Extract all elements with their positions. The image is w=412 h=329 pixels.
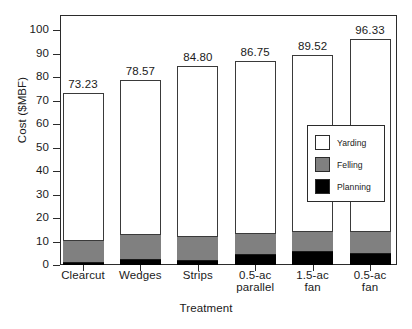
legend-label-yarding: Yarding [337,138,366,148]
bar-stack-wedges [120,80,161,265]
stacked-bar-chart: Cost ($MBF) 1009080706050403020100 73.23… [0,0,412,329]
y-tick-mark [53,77,60,78]
x-category-label-line1: Strips [183,269,213,281]
y-tick-mark [53,171,60,172]
y-tick-mark [53,265,60,266]
x-category-label-line1: Wedges [119,269,162,281]
legend-label-planning: Planning [337,182,371,192]
bar-value-label: 84.80 [183,51,212,63]
x-category-label-line1: 0.5-ac [354,269,387,281]
y-tick-mark [53,30,60,31]
y-tick-label: 90 [9,48,49,60]
legend-item-felling: Felling [315,154,384,175]
y-tick-label: 30 [9,189,49,201]
bar-value-label: 86.75 [241,46,270,58]
bar-segment-planning [292,251,333,265]
legend-swatch-planning [315,179,330,194]
bar-value-label: 73.23 [68,78,97,90]
bar-group: 84.80 [177,15,218,265]
x-category-label: 0.5-acfan [330,269,410,294]
y-tick-label: 20 [9,212,49,224]
y-tick-mark [53,124,60,125]
bar-value-label: 89.52 [298,40,327,52]
legend-swatch-felling [315,157,330,172]
chart-legend: Yarding Felling Planning [307,125,385,202]
x-category-label-line2: fan [330,281,410,293]
x-axis-title: Treatment [0,302,412,314]
y-tick-label: 100 [9,24,49,36]
legend-item-planning: Planning [315,176,384,197]
y-tick-label: 80 [9,71,49,83]
bar-segment-planning [235,254,276,265]
y-tick-mark [53,218,60,219]
y-tick-label: 50 [9,142,49,154]
bar-stack-clearcut [63,93,104,265]
x-category-label-line1: Clearcut [61,269,105,281]
bar-segment-felling [63,240,104,265]
bar-stack-0-5-ac-parallel [235,61,276,265]
bar-stack-strips [177,66,218,265]
y-tick-mark [53,148,60,149]
bar-group: 86.75 [235,15,276,265]
y-tick-label: 40 [9,165,49,177]
legend-label-felling: Felling [337,160,363,170]
y-tick-mark [53,101,60,102]
bar-value-label: 96.33 [355,24,384,36]
bar-group: 78.57 [120,15,161,265]
legend-swatch-yarding [315,135,330,150]
y-tick-mark [53,54,60,55]
y-tick-mark [53,195,60,196]
bar-group: 73.23 [63,15,104,265]
x-category-label-line1: 1.5-ac [296,269,329,281]
y-tick-mark [53,242,60,243]
legend-item-yarding: Yarding [315,132,384,153]
bar-segment-planning [350,253,391,266]
x-category-label-line1: 0.5-ac [239,269,272,281]
bar-value-label: 78.57 [126,65,155,77]
y-tick-label: 60 [9,118,49,130]
y-tick-label: 70 [9,95,49,107]
y-tick-label: 10 [9,236,49,248]
